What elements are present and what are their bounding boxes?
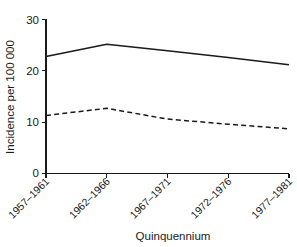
data-line-solid (46, 44, 289, 65)
y-axis-title: Incidence per 100 000 (4, 40, 16, 154)
y-tick-label-30: 30 (26, 14, 39, 26)
x-axis-title: Quinquennium (136, 230, 211, 242)
chart-plot-area: 30 20 10 0 1957–1961 1962–1966 1967–1971… (0, 0, 297, 247)
data-line-dashed (46, 108, 289, 129)
x-tick-label-3: 1972–1976 (188, 175, 234, 221)
x-tick-label-0: 1957–1961 (6, 175, 52, 221)
y-tick-label-10: 10 (26, 116, 39, 128)
y-tick-label-20: 20 (26, 65, 39, 77)
x-tick-label-4: 1977–1981 (249, 175, 295, 221)
x-tick-label-1: 1962–1966 (66, 175, 112, 221)
x-tick-label-2: 1967–1971 (127, 175, 173, 221)
y-tick-label-0: 0 (33, 167, 39, 179)
chart-figure: 30 20 10 0 1957–1961 1962–1966 1967–1971… (0, 0, 297, 247)
